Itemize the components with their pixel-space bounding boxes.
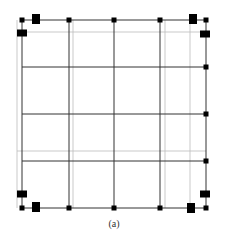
small-node	[204, 206, 209, 211]
small-node	[112, 18, 117, 23]
small-node	[67, 206, 72, 211]
large-node	[32, 202, 40, 212]
small-node	[158, 206, 163, 211]
small-node	[112, 206, 117, 211]
large-node	[200, 31, 210, 38]
small-node	[204, 112, 209, 117]
small-node	[204, 18, 209, 23]
large-node	[189, 14, 197, 24]
small-node	[158, 18, 163, 23]
large-node	[17, 30, 27, 37]
figure-caption: (a)	[0, 218, 228, 229]
large-node	[200, 191, 210, 198]
large-node	[17, 191, 27, 198]
small-node	[20, 206, 25, 211]
diagram-canvas: (a)	[0, 0, 228, 243]
large-node	[32, 14, 40, 24]
large-node	[187, 203, 195, 213]
grid-diagram	[0, 0, 228, 243]
small-node	[204, 159, 209, 164]
small-node	[20, 18, 25, 23]
small-node	[204, 65, 209, 70]
small-node	[67, 18, 72, 23]
